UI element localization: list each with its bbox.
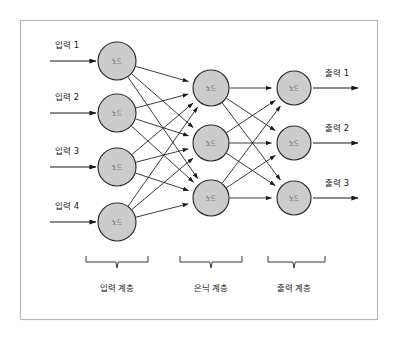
layer-caption-output: 출력 계층 [277, 283, 312, 293]
network-node-output-2[interactable]: 노드 [277, 126, 311, 160]
node-label: 노드 [112, 110, 122, 116]
neural-network-diagram: 노드노드노드노드노드노드노드노드노드노드 입력 1입력 2입력 3입력 4출력 … [0, 0, 400, 339]
output-label-1: 출력 1 [325, 68, 349, 78]
node-label: 노드 [289, 85, 299, 91]
network-node-hidden-3[interactable]: 노드 [193, 180, 229, 216]
node-label: 노드 [206, 195, 216, 201]
network-node-hidden-1[interactable]: 노드 [193, 70, 229, 106]
output-label-2: 출력 2 [325, 123, 349, 133]
network-node-input-3[interactable]: 노드 [98, 148, 136, 186]
network-node-output-3[interactable]: 노드 [277, 181, 311, 215]
input-label-4: 입력 4 [55, 201, 79, 211]
network-node-input-4[interactable]: 노드 [98, 203, 136, 241]
input-label-3: 입력 3 [55, 146, 79, 156]
network-node-input-2[interactable]: 노드 [98, 94, 136, 132]
layer-caption-input: 입력 계층 [100, 283, 135, 293]
output-label-3: 출력 3 [325, 178, 349, 188]
input-label-2: 입력 2 [55, 92, 79, 102]
node-label: 노드 [206, 85, 216, 91]
node-label: 노드 [289, 140, 299, 146]
node-label: 노드 [112, 164, 122, 170]
input-label-1: 입력 1 [55, 40, 79, 50]
layer-caption-hidden: 은닉 계층 [194, 283, 229, 293]
network-node-output-1[interactable]: 노드 [277, 71, 311, 105]
network-node-input-1[interactable]: 노드 [98, 42, 136, 80]
node-label: 노드 [206, 140, 216, 146]
network-node-hidden-2[interactable]: 노드 [193, 125, 229, 161]
node-label: 노드 [112, 58, 122, 64]
node-label: 노드 [289, 195, 299, 201]
diagram-canvas: 노드노드노드노드노드노드노드노드노드노드 입력 1입력 2입력 3입력 4출력 … [0, 0, 400, 339]
node-label: 노드 [112, 219, 122, 225]
frame-border [21, 21, 378, 320]
